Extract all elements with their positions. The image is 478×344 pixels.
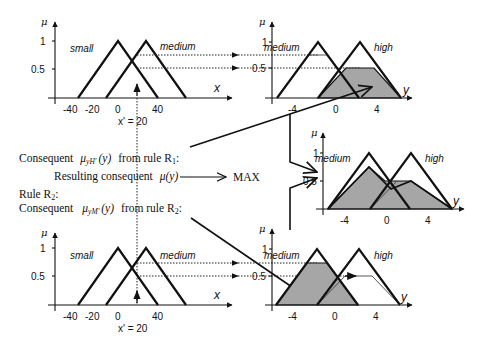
fuzzy-inference-diagram: μ 1 0.5 x -40 -20 0 40 small medium x' =… [0,0,478,344]
rule2-output-chart: μ 1 0.5 medium high y -4 0 4 [238,223,412,322]
svg-text:4: 4 [374,104,380,115]
svg-text:-4: -4 [340,215,349,226]
crisp-input-label: x' = 20 [118,116,148,127]
y-tick-1: 1 [40,36,46,47]
svg-text:y: y [402,83,410,97]
y-tick-0.5: 0.5 [31,64,45,75]
rule-text-block: Consequent μyH'(y) from rule R1: Resulti… [19,148,261,216]
svg-text:x: x [213,288,221,302]
svg-text:0: 0 [384,215,390,226]
svg-text:μ: μ [259,16,266,27]
svg-text:x' = 20: x' = 20 [118,323,148,334]
x-axis-label: x [213,81,221,95]
svg-text:1: 1 [40,243,46,254]
svg-text:0.5: 0.5 [303,176,317,187]
x-tick-labels: -40 -20 0 40 [63,104,164,115]
rule2-label: Rule R2: [19,188,58,202]
resulting-consequent-text: Resulting consequent μ(y) [54,166,178,183]
svg-text:-40: -40 [63,104,78,115]
svg-text:-40: -40 [63,311,78,322]
svg-text:high: high [374,250,393,261]
high-output-label: high [374,42,393,53]
svg-text:y: y [452,194,460,208]
svg-text:4: 4 [373,311,379,322]
svg-text:high: high [425,153,444,164]
rule1-input-chart: μ 1 0.5 x -40 -20 0 40 small medium x' =… [31,16,238,127]
svg-text:medium: medium [264,250,300,261]
svg-text:0.5: 0.5 [31,271,45,282]
svg-text:medium: medium [160,250,196,261]
rule2-input-chart: μ 1 0.5 x -40 -20 0 40 small medium x' =… [31,227,238,334]
svg-text:-4: -4 [288,311,297,322]
svg-text:y: y [400,290,408,304]
medium-output-label: medium [264,42,300,53]
svg-text:0: 0 [115,104,121,115]
svg-text:medium: medium [315,153,351,164]
rule1-output-chart: μ 1 0.5 medium high y -4 0 4 [238,16,412,115]
max-input-arrow-1 [290,114,317,172]
svg-text:0.5: 0.5 [252,271,266,282]
svg-text:small: small [70,250,94,261]
svg-text:0: 0 [333,104,339,115]
svg-text:0: 0 [332,311,338,322]
medium-set-label: medium [160,41,196,52]
max-operator-label: MAX [233,171,261,183]
rule1-consequent-connector [190,87,372,147]
svg-text:-20: -20 [85,311,100,322]
svg-text:μ: μ [311,127,318,138]
svg-text:40: 40 [152,104,164,115]
svg-text:-20: -20 [85,104,100,115]
mu-axis-label: μ [41,16,48,27]
svg-text:4: 4 [425,215,431,226]
small-set-label: small [70,43,94,54]
svg-text:μ: μ [41,227,48,238]
svg-text:μ: μ [259,223,266,234]
svg-text:0: 0 [115,311,121,322]
svg-text:40: 40 [152,311,164,322]
rule1-consequent-text: Consequent μyH'(y) from rule R1: [19,148,179,166]
svg-text:0.5: 0.5 [252,63,266,74]
aggregated-output-chart: μ 1 0.5 medium high y -4 0 4 [303,127,464,226]
rule2-consequent-text: Consequent μyM'(y) from rule R2: [19,198,182,216]
